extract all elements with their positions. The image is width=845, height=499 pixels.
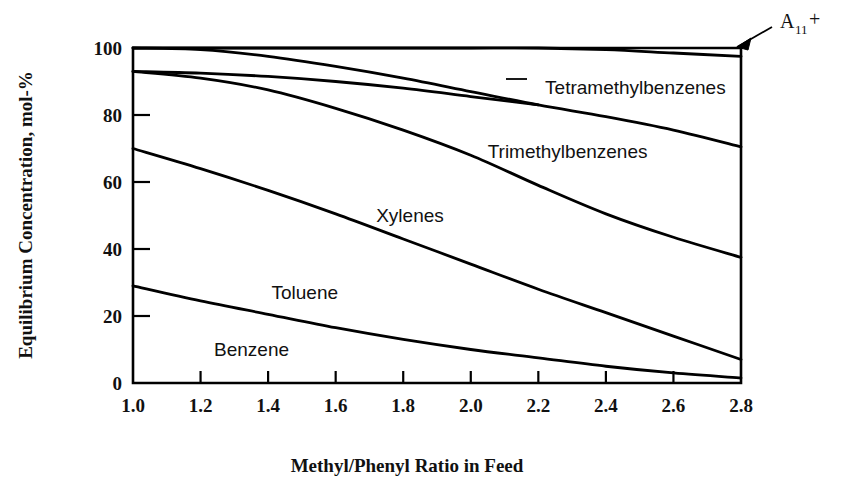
y-tick-label: 60 <box>103 172 122 193</box>
a11plus-subscript: 11 <box>795 22 808 37</box>
a11plus-base: A <box>780 10 795 32</box>
y-tick-label: 100 <box>94 38 123 59</box>
y-axis-title: Equilibrium Concentration, mol-% <box>15 71 36 359</box>
x-tick-label: 1.8 <box>391 395 415 416</box>
x-tick-label: 2.0 <box>459 395 483 416</box>
equilibrium-concentration-chart: 1.01.21.41.61.82.02.22.42.62.8 020406080… <box>0 0 845 499</box>
series-label-benzene: Benzene <box>214 339 289 360</box>
x-tick-label: 1.6 <box>324 395 348 416</box>
x-tick-label: 2.8 <box>729 395 753 416</box>
y-tick-label: 80 <box>103 105 122 126</box>
x-tick-label: 1.2 <box>189 395 213 416</box>
x-tick-label: 1.0 <box>121 395 145 416</box>
x-tick-label: 1.4 <box>256 395 280 416</box>
y-tick-label: 40 <box>103 239 122 260</box>
y-tick-label: 0 <box>113 373 123 394</box>
x-tick-label: 2.2 <box>526 395 550 416</box>
x-axis-title: Methyl/Phenyl Ratio in Feed <box>291 455 524 476</box>
chart-page: 1.01.21.41.61.82.02.22.42.62.8 020406080… <box>0 0 845 499</box>
a11plus-superscript: + <box>809 8 820 30</box>
series-label-trimethylbenzenes: Trimethylbenzenes <box>488 141 648 162</box>
x-tick-label: 2.4 <box>594 395 618 416</box>
series-label-tetramethylbenzenes: Tetramethylbenzenes <box>545 77 726 98</box>
series-label-xylenes: Xylenes <box>376 205 444 226</box>
y-tick-label: 20 <box>103 306 122 327</box>
x-tick-label: 2.6 <box>662 395 686 416</box>
series-label-toluene: Toluene <box>271 282 338 303</box>
